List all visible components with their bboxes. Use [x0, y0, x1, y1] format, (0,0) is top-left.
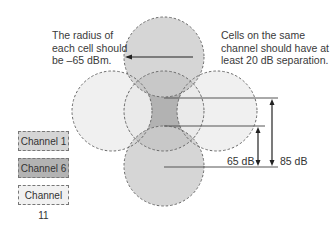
legend-label: Channel 1 [21, 136, 67, 147]
measurement-arrow-85db [270, 99, 275, 166]
legend-channel-6: Channel 6 [18, 158, 69, 178]
label-65db: 65 dB [227, 155, 254, 167]
separation-note: Cells on the same channel should have at… [221, 29, 331, 67]
measurement-arrow-65db [256, 127, 261, 166]
label-85db: 85 dB [280, 155, 307, 167]
legend-channel-1: Channel 1 [18, 131, 69, 151]
legend-label: Channel 6 [21, 163, 67, 174]
radius-note: The radius of each cell should be –65 dB… [52, 29, 132, 67]
legend-channel-11: Channel 11 [18, 185, 69, 205]
